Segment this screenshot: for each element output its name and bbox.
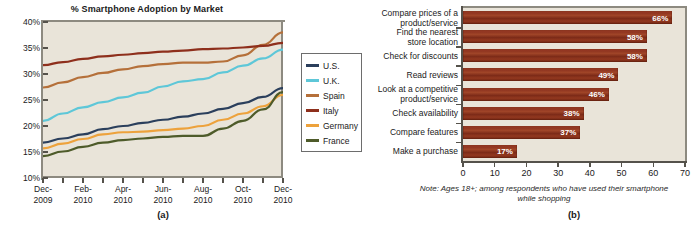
line-chart-x-tick xyxy=(82,178,84,183)
bar-item[interactable]: 58% xyxy=(463,30,647,43)
line-series-us xyxy=(43,88,283,143)
bar-category-label: Read reviews xyxy=(353,70,458,80)
bar-value-label: 58% xyxy=(627,51,643,60)
bar-category-tick xyxy=(456,65,461,67)
line-chart-y-tick xyxy=(43,151,48,153)
line-chart-y-tick-label: 30% xyxy=(4,69,40,79)
bar-value-label: 38% xyxy=(563,109,579,118)
bar-item[interactable]: 38% xyxy=(463,107,584,120)
line-chart-title: % Smartphone Adoption by Market xyxy=(22,4,272,14)
bar-value-label: 58% xyxy=(627,32,643,41)
line-chart-y-tick-label: 35% xyxy=(4,43,40,53)
bar-chart-clipped-title xyxy=(488,0,668,5)
bar-x-tick-label: 70 xyxy=(670,168,697,178)
bar-fill: 38% xyxy=(463,107,584,120)
legend-swatch-icon xyxy=(306,79,319,82)
bar-category-label: Find the nearest store location xyxy=(353,27,458,47)
bar-x-tick-label: 50 xyxy=(607,168,637,178)
bar-category-tick xyxy=(456,46,461,48)
figure-b-caption: (b) xyxy=(463,209,685,220)
bar-fill: 46% xyxy=(463,88,609,101)
legend-item-label: Italy xyxy=(323,106,339,116)
bar-value-label: 46% xyxy=(589,90,605,99)
bar-x-tick xyxy=(653,162,655,167)
bar-item[interactable]: 58% xyxy=(463,49,647,62)
bar-item[interactable]: 37% xyxy=(463,126,580,139)
figure-b-bar-chart: 66%58%58%49%46%38%37%17% Compare prices … xyxy=(368,0,697,233)
bar-x-tick-label: 30 xyxy=(543,168,573,178)
legend-item-label: France xyxy=(323,136,349,146)
bar-item[interactable]: 17% xyxy=(463,145,517,158)
bar-category-label: Make a purchase xyxy=(353,146,458,156)
line-chart-y-tick-label: 20% xyxy=(4,121,40,131)
line-chart-x-tick xyxy=(142,178,144,183)
bar-x-tick xyxy=(557,162,559,167)
line-chart-x-tick-label: Dec- 2010 xyxy=(257,184,309,205)
bar-x-tick-label: 60 xyxy=(638,168,668,178)
line-chart-y-tick-label: 10% xyxy=(4,173,40,183)
bar-x-tick xyxy=(621,162,623,167)
legend-item-label: U.K. xyxy=(323,76,340,86)
bar-x-tick-label: 0 xyxy=(448,168,478,178)
bar-x-tick-label: 40 xyxy=(575,168,605,178)
bar-category-label: Compare features xyxy=(353,127,458,137)
legend-item-label: Spain xyxy=(323,91,345,101)
legend-swatch-icon xyxy=(306,64,319,67)
line-chart-y-tick xyxy=(43,47,48,49)
line-chart-y-tick-label: 15% xyxy=(4,147,40,157)
line-chart-x-tick xyxy=(62,178,64,183)
line-chart-x-tick xyxy=(182,178,184,183)
line-chart-x-tick xyxy=(162,178,164,183)
bar-fill: 37% xyxy=(463,126,580,139)
legend-swatch-icon xyxy=(306,109,319,112)
line-chart-y-tick-label: 25% xyxy=(4,95,40,105)
legend-swatch-icon xyxy=(306,94,319,97)
bar-x-tick-label: 10 xyxy=(480,168,510,178)
line-chart-y-tick-label: 40% xyxy=(4,17,40,27)
bar-fill: 58% xyxy=(463,30,647,43)
line-chart-y-tick xyxy=(43,125,48,127)
bar-x-tick xyxy=(589,162,591,167)
line-chart-x-tick xyxy=(102,178,104,183)
bar-chart-right-border xyxy=(685,6,687,163)
bar-value-label: 49% xyxy=(598,70,614,79)
bar-chart-top-border xyxy=(461,6,687,8)
bar-value-label: 37% xyxy=(560,128,576,137)
line-chart-y-tick xyxy=(43,21,48,23)
bar-x-tick xyxy=(684,162,686,167)
line-chart-x-tick xyxy=(122,178,124,183)
bar-value-label: 17% xyxy=(497,147,513,156)
bar-category-label: Look at a competitive product/service xyxy=(353,84,458,104)
bar-category-tick xyxy=(456,142,461,144)
line-chart-x-tick xyxy=(222,178,224,183)
legend-swatch-icon xyxy=(306,124,319,127)
line-chart-x-tick xyxy=(242,178,244,183)
line-chart-y-tick xyxy=(43,177,48,179)
bar-item[interactable]: 66% xyxy=(463,11,672,24)
figure-a-caption: (a) xyxy=(43,209,283,220)
figure-a-line-chart: % Smartphone Adoption by Market 10%15%20… xyxy=(0,0,368,233)
bar-category-label: Compare prices of a product/service xyxy=(353,8,458,28)
line-chart-plot-area xyxy=(43,22,283,178)
bar-category-label: Check availability xyxy=(353,108,458,118)
line-chart-y-tick xyxy=(43,73,48,75)
line-chart-x-tick xyxy=(42,178,44,183)
bar-x-tick xyxy=(462,162,464,167)
line-chart-top-border xyxy=(41,20,285,22)
legend-item-label: U.S. xyxy=(323,61,340,71)
bar-fill: 66% xyxy=(463,11,672,24)
line-chart-x-tick xyxy=(282,178,284,183)
bar-category-tick xyxy=(456,123,461,125)
bar-fill: 58% xyxy=(463,49,647,62)
bar-x-tick-label: 20 xyxy=(511,168,541,178)
bar-item[interactable]: 46% xyxy=(463,88,609,101)
bar-value-label: 66% xyxy=(652,13,668,22)
bar-chart-note: Note: Ages 18+; among respondents who ha… xyxy=(414,184,674,204)
line-chart-x-tick xyxy=(262,178,264,183)
bar-fill: 17% xyxy=(463,145,517,158)
bar-fill: 49% xyxy=(463,68,618,81)
bar-item[interactable]: 49% xyxy=(463,68,618,81)
bar-category-label: Check for discounts xyxy=(353,51,458,61)
bar-x-tick xyxy=(526,162,528,167)
bar-x-tick xyxy=(494,162,496,167)
